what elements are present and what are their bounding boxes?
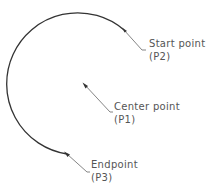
arc-diagram: Start point (P2) Center point (P1) Endpo… (0, 0, 215, 192)
endpoint-id: (P3) (91, 172, 112, 183)
start-point-leader (122, 28, 146, 51)
start-point-id: (P2) (149, 51, 170, 62)
endpoint-leader (64, 152, 90, 173)
diagram-svg: Start point (P2) Center point (P1) Endpo… (0, 0, 215, 192)
center-point-id: (P1) (114, 114, 135, 125)
center-point-leader (83, 83, 114, 113)
start-point-label: Start point (149, 38, 205, 49)
arrowhead-icon (122, 28, 127, 33)
center-point-label: Center point (114, 101, 180, 112)
endpoint-label: Endpoint (91, 159, 138, 170)
arc-curve (7, 13, 124, 154)
